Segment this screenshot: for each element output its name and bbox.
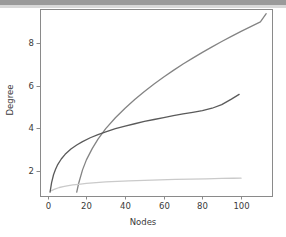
x-tick-label: 20 bbox=[75, 201, 99, 211]
x-tick-label: 0 bbox=[37, 201, 61, 211]
y-tick-label: 4 bbox=[16, 123, 34, 133]
series-line-steep-curve bbox=[77, 14, 266, 193]
x-tick-label: 100 bbox=[230, 201, 254, 211]
x-tick-label: 60 bbox=[153, 201, 177, 211]
x-tick-label: 40 bbox=[114, 201, 138, 211]
axes-frame bbox=[41, 10, 273, 197]
series-line-dark-curve bbox=[50, 94, 239, 192]
y-tick-label: 8 bbox=[16, 38, 34, 48]
y-tick-label: 6 bbox=[16, 81, 34, 91]
chart-figure: 0204060801002468 Nodes Degree bbox=[0, 0, 286, 237]
x-axis-label: Nodes bbox=[0, 217, 286, 227]
y-axis-label: Degree bbox=[5, 74, 15, 126]
y-tick-label: 2 bbox=[16, 166, 34, 176]
x-tick-label: 80 bbox=[191, 201, 215, 211]
